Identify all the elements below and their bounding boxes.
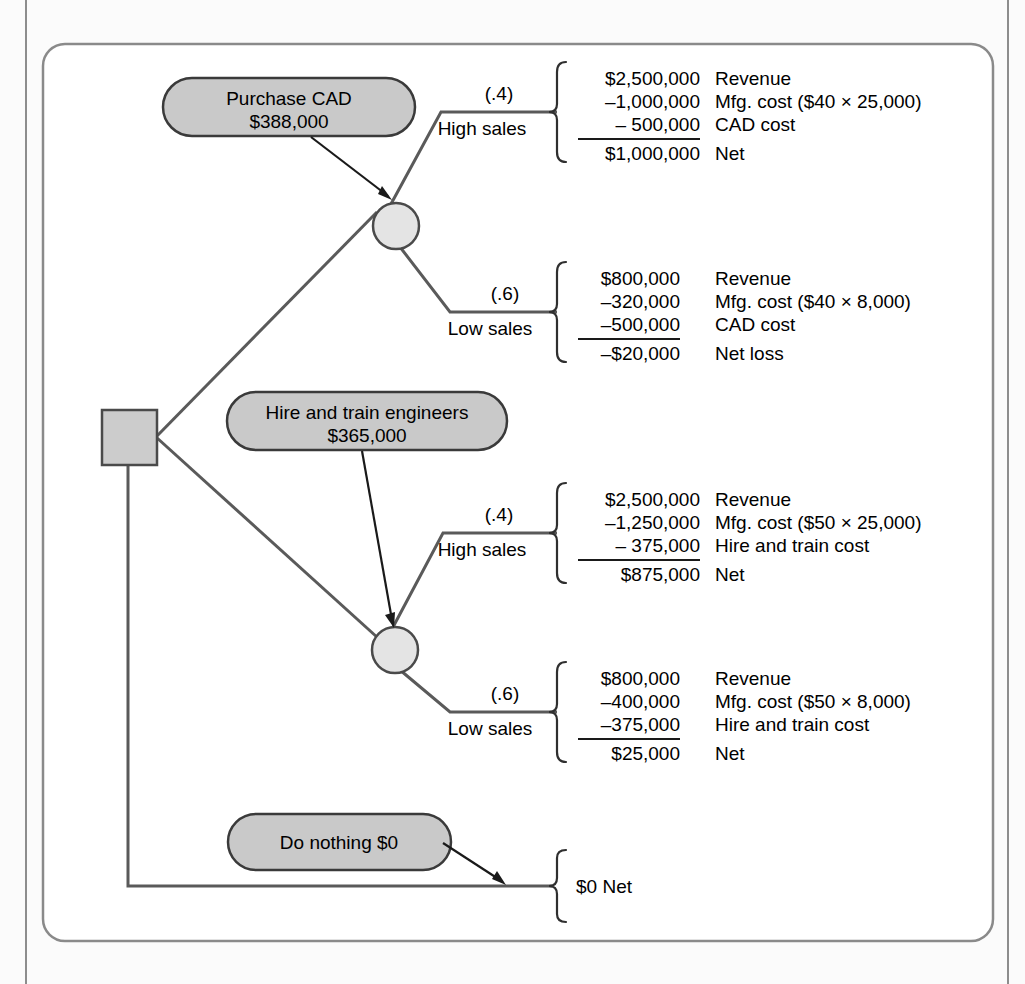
purchase-cad-label-line1: Purchase CAD [226, 88, 352, 109]
figure-page: Purchase CAD $388,000 Hire and train eng… [0, 0, 1025, 984]
chance-node-cad[interactable] [373, 203, 419, 249]
hire-and-train-label-line1: Hire and train engineers [266, 402, 469, 423]
payoff-amount: –500,000 [601, 314, 680, 335]
payoff-desc: Revenue [715, 268, 791, 289]
decision-square[interactable] [102, 410, 157, 465]
payoff-desc: Hire and train cost [715, 714, 870, 735]
payoff-amount: $800,000 [601, 268, 680, 289]
payoff-amount: –1,000,000 [605, 91, 700, 112]
payoff-desc-net: Net loss [715, 343, 784, 364]
do-nothing-label: Do nothing $0 [280, 832, 398, 853]
payoff-amount: –320,000 [601, 291, 680, 312]
payoff-desc: CAD cost [715, 114, 796, 135]
payoff-desc: Mfg. cost ($40 × 8,000) [715, 291, 911, 312]
payoff-amount: – 500,000 [615, 114, 700, 135]
payoff-amount: – 375,000 [615, 535, 700, 556]
branch-label-hire-low: Low sales [448, 718, 533, 739]
payoff-amount-net: $0 Net [576, 876, 633, 897]
chance-node-hire[interactable] [372, 627, 418, 673]
payoff-amount-net: $875,000 [621, 564, 700, 585]
payoff-desc: Mfg. cost ($50 × 8,000) [715, 691, 911, 712]
payoff-desc: Mfg. cost ($40 × 25,000) [715, 91, 921, 112]
payoff-desc: Revenue [715, 68, 791, 89]
payoff-amount-net: –$20,000 [601, 343, 680, 364]
payoff-amount: –1,250,000 [605, 512, 700, 533]
branch-prob-cad-low: (.6) [491, 283, 520, 304]
branch-prob-hire-low: (.6) [491, 683, 520, 704]
decision-tree-diagram: Purchase CAD $388,000 Hire and train eng… [0, 0, 1025, 984]
branch-label-cad-low: Low sales [448, 318, 533, 339]
branch-prob-cad-high: (.4) [485, 83, 514, 104]
hire-and-train-label-line2: $365,000 [327, 425, 406, 446]
payoff-desc: Revenue [715, 668, 791, 689]
payoff-amount: –375,000 [601, 714, 680, 735]
payoff-amount-net: $1,000,000 [605, 143, 700, 164]
payoff-desc-net: Net [715, 743, 745, 764]
purchase-cad-label-line2: $388,000 [249, 111, 328, 132]
payoff-desc: Mfg. cost ($50 × 25,000) [715, 512, 921, 533]
payoff-amount: $2,500,000 [605, 489, 700, 510]
branch-prob-hire-high: (.4) [485, 504, 514, 525]
payoff-desc: Revenue [715, 489, 791, 510]
payoff-amount: –400,000 [601, 691, 680, 712]
payoff-desc-net: Net [715, 564, 745, 585]
payoff-amount: $2,500,000 [605, 68, 700, 89]
payoff-amount: $800,000 [601, 668, 680, 689]
payoff-desc: Hire and train cost [715, 535, 870, 556]
payoff-amount-net: $25,000 [611, 743, 680, 764]
payoff-desc-net: Net [715, 143, 745, 164]
payoff-desc: CAD cost [715, 314, 796, 335]
payoff-block-do-nothing: $0 Net [576, 876, 633, 897]
branch-label-hire-high: High sales [438, 539, 527, 560]
figure-frame [43, 44, 993, 941]
branch-label-cad-high: High sales [438, 118, 527, 139]
